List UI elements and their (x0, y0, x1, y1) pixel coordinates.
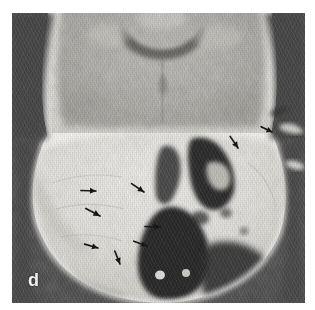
ct-scan-image (12, 13, 305, 303)
third-ventricle (159, 75, 167, 95)
bright-focus-1 (155, 271, 165, 280)
panel-label: d (28, 271, 39, 289)
ct-scan-panel: d (12, 13, 305, 303)
bright-focus-2 (182, 269, 190, 277)
figure-root: d (0, 0, 315, 310)
